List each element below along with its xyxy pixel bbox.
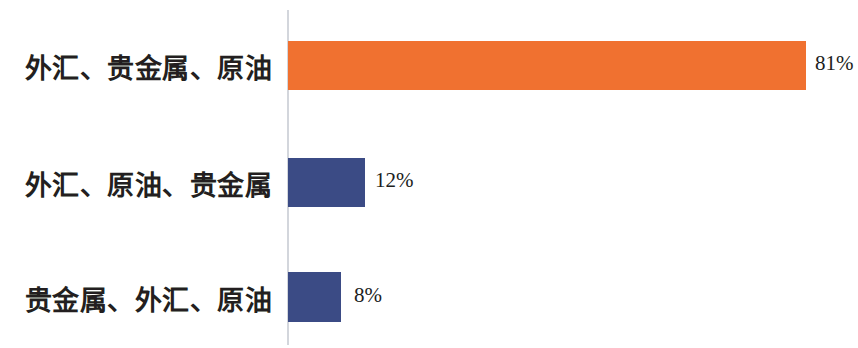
bar-value-label: 12% bbox=[375, 168, 414, 193]
bar-row: 贵金属、外汇、原油 8% bbox=[0, 272, 858, 322]
category-label: 贵金属、外汇、原油 bbox=[0, 279, 272, 318]
bar-series-1[interactable] bbox=[288, 41, 806, 90]
bar-value-label: 8% bbox=[354, 283, 382, 308]
bar-row: 外汇、原油、贵金属 12% bbox=[0, 158, 858, 207]
bar-value-label: 81% bbox=[815, 51, 854, 76]
bar-chart: 外汇、贵金属、原油 81% 外汇、原油、贵金属 12% 贵金属、外汇、原油 8% bbox=[0, 0, 858, 348]
bar-series-2[interactable] bbox=[288, 158, 365, 207]
category-label: 外汇、贵金属、原油 bbox=[0, 47, 272, 86]
bar-series-3[interactable] bbox=[288, 272, 341, 322]
category-label: 外汇、原油、贵金属 bbox=[0, 164, 272, 203]
bar-row: 外汇、贵金属、原油 81% bbox=[0, 41, 858, 90]
